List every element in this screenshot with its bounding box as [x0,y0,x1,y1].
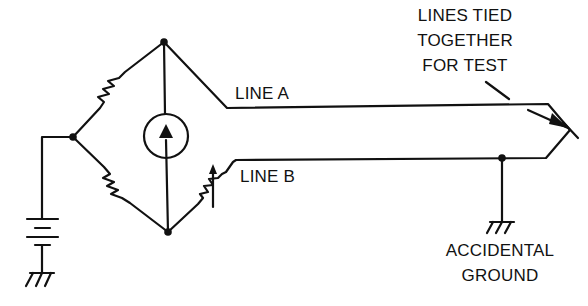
galvanometer [144,42,188,232]
accidental-ground-note: ACCIDENTAL GROUND [420,241,580,286]
tied-note-line-2: TOGETHER [395,31,535,51]
variable-resistor-r3 [168,130,570,232]
tied-note-line-3: FOR TEST [395,56,535,76]
ground-icon [26,273,54,286]
tie-point-marker [486,82,578,138]
line-a-label: LINE A [235,84,289,104]
accidental-ground-icon [487,222,514,233]
accidental-ground-line-2: GROUND [420,266,580,286]
node-top [160,38,168,46]
resistor-r1 [73,42,164,137]
battery [27,137,73,273]
resistor-r2 [73,137,168,232]
tied-note: LINES TIED TOGETHER FOR TEST [395,6,535,76]
node-bottom [164,228,172,236]
accidental-ground-line-1: ACCIDENTAL [420,241,580,261]
line-b-label: LINE B [240,167,295,187]
tied-note-line-1: LINES TIED [395,6,535,26]
